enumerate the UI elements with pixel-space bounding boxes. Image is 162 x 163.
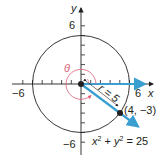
y-min-label: −6	[63, 138, 76, 150]
x-min-label: −6	[12, 87, 25, 99]
radius-label: r = 5	[97, 82, 123, 106]
y-max-label: 6	[69, 19, 75, 31]
point-label: (4, −3)	[124, 104, 156, 116]
point-4-neg3	[117, 110, 123, 116]
circle-equation: x2 + y2 = 25	[91, 135, 148, 147]
theta-label: θ	[64, 62, 70, 74]
unit-circle-diagram: r = 5 y x 6 −6 −6 6 (4, −3) θ x2 + y2 = …	[0, 0, 162, 163]
x-max-label: 6	[135, 87, 141, 99]
x-axis-label: x	[147, 87, 154, 99]
origin-point	[78, 81, 84, 87]
y-axis-label: y	[70, 2, 78, 14]
